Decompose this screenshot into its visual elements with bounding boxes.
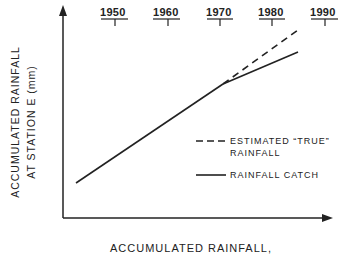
x-axis-arrow-icon	[322, 214, 333, 222]
year-label: 1960	[153, 6, 179, 18]
legend-estimated: ESTIMATED “TRUE” RAINFALL	[230, 135, 330, 159]
year-label: 1990	[310, 6, 336, 18]
y-axis-arrow-icon	[59, 5, 67, 16]
legend-estimated-line2: RAINFALL	[230, 147, 330, 159]
curves	[76, 30, 298, 183]
year-label: 1980	[258, 6, 284, 18]
axes	[59, 5, 333, 222]
y-axis-label-line1: ACCUMULATED RAINFALL	[7, 37, 23, 207]
rainfall-catch-line	[223, 52, 298, 84]
legend-catch: RAINFALL CATCH	[230, 169, 319, 181]
x-axis-label: ACCUMULATED RAINFALL,	[110, 242, 272, 254]
timeline-ticks	[101, 19, 338, 26]
common-segment	[76, 84, 223, 183]
diagram-canvas	[0, 0, 338, 262]
y-axis-label: ACCUMULATED RAINFALL AT STATION E (mm)	[7, 37, 39, 207]
year-label: 1950	[100, 6, 126, 18]
year-label: 1970	[206, 6, 232, 18]
legend-estimated-line1: ESTIMATED “TRUE”	[230, 135, 330, 147]
y-axis-label-line2: AT STATION E (mm)	[23, 37, 39, 207]
